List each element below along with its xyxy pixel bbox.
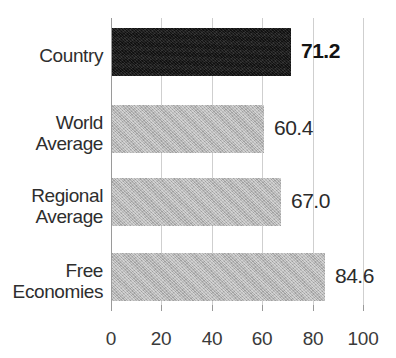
category-label-free-economies: Free Economies (0, 260, 103, 302)
bar-country (112, 28, 291, 76)
bar-row-free-economies: 84.6 (111, 253, 363, 301)
bar-chart: Country World Average Regional Average F… (0, 0, 396, 358)
xtick-0 (111, 305, 112, 311)
category-label-country: Country (0, 45, 103, 66)
category-label-line: Free (0, 260, 103, 281)
bar-row-world-average: 60.4 (111, 105, 363, 153)
xtick-100 (363, 305, 364, 311)
bar-row-regional-average: 67.0 (111, 178, 363, 226)
xtick-20 (161, 305, 162, 311)
bar-value-country: 71.2 (301, 39, 340, 63)
gridline-100 (363, 18, 364, 305)
bar-row-country: 71.2 (111, 28, 363, 76)
bar-value-free-economies: 84.6 (335, 264, 374, 288)
category-label-line: World (0, 112, 103, 133)
plot-area: 71.2 60.4 67.0 84.6 0 20 40 60 80 100 (111, 18, 363, 305)
bar-world-average (112, 105, 264, 153)
category-label-regional-average: Regional Average (0, 185, 103, 227)
xtick-label-100: 100 (333, 328, 393, 350)
xtick-40 (212, 305, 213, 311)
xtick-80 (313, 305, 314, 311)
bar-free-economies (112, 253, 325, 301)
bar-regional-average (112, 178, 281, 226)
bar-value-world-average: 60.4 (274, 116, 313, 140)
category-label-line: Average (0, 133, 103, 154)
chart-title-cropped (0, 0, 396, 14)
category-label-line: Economies (0, 281, 103, 302)
category-label-world-average: World Average (0, 112, 103, 154)
xtick-60 (262, 305, 263, 311)
bar-value-regional-average: 67.0 (291, 189, 330, 213)
category-label-line: Regional (0, 185, 103, 206)
category-label-line: Country (0, 45, 103, 66)
category-label-line: Average (0, 206, 103, 227)
